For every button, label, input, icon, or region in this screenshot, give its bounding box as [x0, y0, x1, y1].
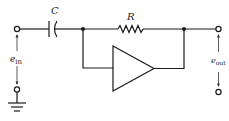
input-voltage-label: ein	[10, 54, 23, 66]
resistor-label: R	[126, 11, 135, 22]
output-voltage-label: eout	[211, 56, 226, 66]
wire-junction-to-opamp-input	[83, 29, 113, 68]
output-terminal-top	[216, 26, 221, 31]
ground-icon	[8, 92, 26, 111]
opamp-icon	[113, 46, 154, 91]
resistor-icon	[118, 26, 143, 33]
input-terminal-top	[14, 26, 19, 31]
capacitor-label: C	[51, 5, 59, 16]
circuit-diagram: C R eout ein	[0, 0, 229, 121]
output-terminal-bottom	[216, 89, 221, 94]
input-terminal-bottom	[14, 87, 19, 92]
wire-opamp-output-to-junction	[154, 29, 184, 69]
